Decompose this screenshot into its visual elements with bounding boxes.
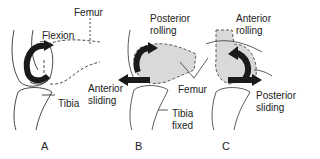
label-b-sliding-1: Anterior (88, 83, 123, 94)
label-c-rolling-1: Anterior (236, 13, 271, 24)
label-a-tibia: Tibia (58, 98, 79, 109)
label-b-rolling-1: Posterior (150, 13, 190, 24)
label-b-tibia-1: Tibia (172, 108, 193, 119)
label-c-sliding-1: Posterior (256, 90, 296, 101)
posterior-sliding-arrow-icon (252, 74, 262, 86)
label-b-tibia-2: fixed (172, 120, 193, 131)
panel-label-c: C (222, 140, 230, 152)
label-c-rolling-2: rolling (236, 25, 263, 36)
flexion-arrow-icon (27, 46, 48, 80)
label-b-rolling-2: rolling (150, 25, 177, 36)
panel-label-b: B (135, 140, 142, 152)
panel-label-a: A (41, 140, 48, 152)
label-b-sliding-2: sliding (88, 95, 116, 106)
label-c-sliding-2: sliding (256, 102, 284, 113)
label-a-flexion: Flexion (42, 30, 74, 41)
label-a-femur: Femur (74, 7, 103, 18)
panel-b-drawing (118, 30, 208, 130)
label-b-femur: Femur (178, 84, 207, 95)
panel-c-drawing (206, 30, 272, 130)
